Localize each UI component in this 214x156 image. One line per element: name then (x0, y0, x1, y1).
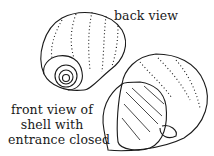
front-view-label-line-1: front view of (8, 102, 96, 117)
back-view-label: back view (114, 8, 178, 23)
front-view-label-line-3: entrance closed (8, 132, 96, 147)
front-view-shell (103, 54, 207, 151)
back-view-shell (41, 12, 126, 90)
front-view-label: front view of shell with entrance closed (8, 102, 96, 147)
front-view-label-line-2: shell with (8, 117, 96, 132)
